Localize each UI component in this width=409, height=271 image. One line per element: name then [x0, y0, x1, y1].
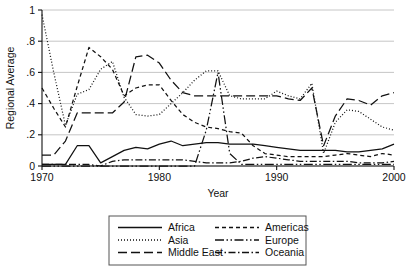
chart-legend: AfricaAmericasAsiaEuropeMiddle EastOcean… — [109, 216, 309, 265]
y-tick-label: 0 — [29, 160, 35, 172]
y-axis-title: Regional Average — [4, 46, 16, 129]
x-tick-label: 1970 — [30, 171, 54, 183]
x-tick-label: 2000 — [382, 171, 406, 183]
x-tick-label: 1980 — [148, 171, 172, 183]
legend-label-europe: Europe — [265, 234, 299, 246]
x-axis-title: Year — [207, 187, 229, 199]
y-tick-label: .4 — [26, 97, 35, 109]
y-tick-label: .8 — [26, 35, 35, 47]
legend-label-americas: Americas — [265, 221, 309, 233]
legend-label-africa: Africa — [168, 221, 195, 233]
legend-label-oceania: Oceania — [265, 246, 304, 258]
y-tick-label: .6 — [26, 66, 35, 78]
chart-figure: 0.2.4.6.81 1970198019902000 Regional Ave… — [0, 0, 409, 271]
y-tick-label: 1 — [29, 4, 35, 16]
legend-label-middle-east: Middle East — [168, 246, 223, 258]
legend-label-asia: Asia — [168, 234, 189, 246]
regional-average-line-chart: 0.2.4.6.81 1970198019902000 Regional Ave… — [0, 0, 409, 271]
y-tick-label: .2 — [26, 128, 35, 140]
x-tick-label: 1990 — [265, 171, 289, 183]
